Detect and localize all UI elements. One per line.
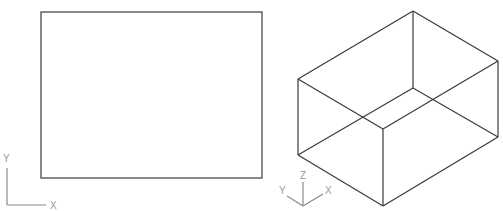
ucs-icon-2d: Y X xyxy=(3,153,57,211)
rectangle-2d[interactable] xyxy=(41,12,262,178)
ucs-z-label: Z xyxy=(300,170,306,181)
ucs-y-label: Y xyxy=(3,153,10,164)
ucs-x-label: X xyxy=(325,185,332,196)
drawing-canvas[interactable]: Y X Z X Y xyxy=(0,0,503,211)
ucs-x-label: X xyxy=(50,200,57,211)
box-3d-wireframe[interactable] xyxy=(298,11,498,206)
ucs-icon-3d: Z X Y xyxy=(279,170,332,206)
ucs-y-label: Y xyxy=(279,185,286,196)
